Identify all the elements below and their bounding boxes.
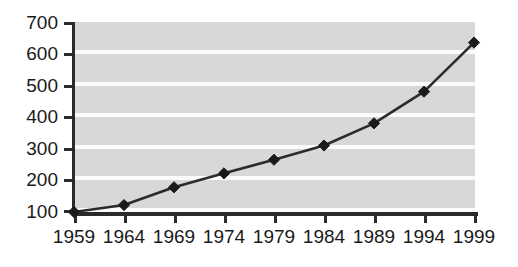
x-axis-tick-label: 1969 (153, 226, 195, 248)
x-axis-tick (274, 214, 277, 223)
x-axis-tick (324, 214, 327, 223)
y-axis-tick-label: 700 (26, 13, 58, 32)
gridline (75, 82, 475, 86)
gridline (75, 176, 475, 180)
y-axis-tick-label: 400 (26, 107, 58, 126)
y-axis-tick (64, 116, 73, 119)
y-axis-tick (64, 179, 73, 182)
x-axis-tick (124, 214, 127, 223)
y-axis-tick (64, 53, 73, 56)
x-axis-tick-label: 1964 (103, 226, 145, 248)
x-axis-tick-label-group: 1959 1964 1969 1974 1979 1984 1989 1994 … (0, 226, 518, 256)
x-axis-tick-label: 1959 (53, 226, 95, 248)
line-chart: 700 600 500 400 300 200 100 1959 1964 19… (0, 0, 518, 267)
x-axis-tick (74, 214, 77, 223)
y-axis-tick-label: 500 (26, 76, 58, 95)
x-axis-tick-label: 1984 (303, 226, 345, 248)
x-axis-tick (224, 214, 227, 223)
x-axis-tick-label: 1994 (403, 226, 445, 248)
y-axis-tick-label: 600 (26, 44, 58, 63)
y-axis-tick-label: 200 (26, 170, 58, 189)
x-axis-tick (374, 214, 377, 223)
x-axis-tick (174, 214, 177, 223)
y-axis-tick-label: 100 (26, 202, 58, 221)
plot-area (75, 22, 475, 212)
y-axis-tick (64, 148, 73, 151)
y-axis-tick-label: 300 (26, 139, 58, 158)
y-axis-tick (64, 22, 73, 25)
gridline (75, 145, 475, 149)
x-axis-tick-label: 1979 (253, 226, 295, 248)
x-axis-tick-label: 1989 (353, 226, 395, 248)
gridline (75, 113, 475, 117)
x-axis-tick-label: 1999 (453, 226, 495, 248)
y-axis-tick (64, 85, 73, 88)
gridline (75, 50, 475, 54)
x-axis-tick (474, 214, 477, 223)
x-axis-tick-label: 1974 (203, 226, 245, 248)
x-axis-tick (424, 214, 427, 223)
